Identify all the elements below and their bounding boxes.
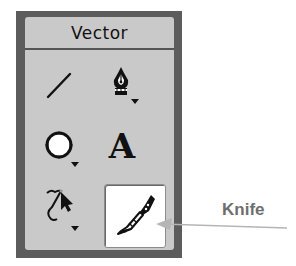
callout-pointer [0, 0, 296, 266]
callout-label: Knife [222, 200, 265, 220]
stage: Vector [0, 0, 296, 266]
